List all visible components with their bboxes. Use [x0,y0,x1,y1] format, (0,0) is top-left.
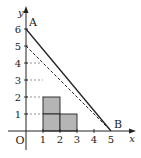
svg-text:6: 6 [15,24,21,35]
svg-text:5: 5 [15,41,21,52]
shaded-squares [43,97,77,131]
svg-text:4: 4 [91,134,97,145]
point-a-label: A [28,16,38,29]
svg-text:3: 3 [15,75,21,86]
guide-lines [26,63,43,114]
origin-label: O [15,134,24,147]
point-b-label: B [114,118,122,131]
svg-text:2: 2 [15,92,21,103]
svg-text:3: 3 [74,134,80,145]
svg-text:5: 5 [108,134,114,145]
y-axis-arrow-icon [24,6,29,13]
y-axis-label: y [17,7,24,18]
svg-text:2: 2 [57,134,63,145]
svg-text:4: 4 [15,58,21,69]
x-axis-label: x [129,133,135,144]
svg-text:1: 1 [40,134,46,145]
coordinate-diagram: 1 2 3 4 5 1 2 3 4 5 6 O y x A B [0,0,141,158]
y-tick-labels: 1 2 3 4 5 6 [15,24,21,120]
svg-text:1: 1 [15,109,21,120]
x-tick-labels: 1 2 3 4 5 [40,134,114,145]
